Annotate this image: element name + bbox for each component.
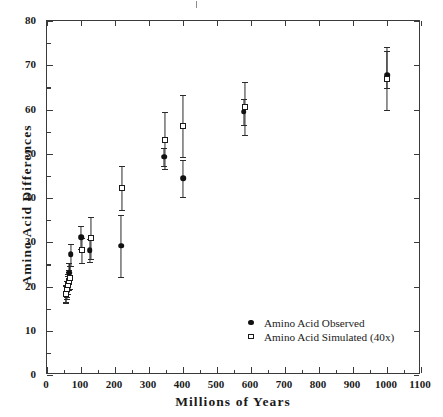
x-tick-label: 1100	[397, 378, 443, 390]
filled-circle-icon	[243, 320, 259, 325]
x-tick-label-layer: 010020030040050060070080090010001100	[0, 0, 443, 417]
legend-item-simulated: Amino Acid Simulated (40x)	[243, 330, 394, 343]
x-axis-title: Millions of Years	[46, 394, 420, 410]
legend-label-simulated: Amino Acid Simulated (40x)	[264, 331, 394, 343]
y-axis-title: Amino Acid Differences	[19, 95, 35, 315]
open-square-icon	[243, 334, 259, 340]
legend-label-observed: Amino Acid Observed	[264, 317, 365, 329]
legend-item-observed: Amino Acid Observed	[243, 316, 394, 329]
chart-legend: Amino Acid Observed Amino Acid Simulated…	[243, 316, 394, 344]
amino-acid-scatter-chart: 01020304050607080 0100200300400500600700…	[0, 0, 443, 417]
